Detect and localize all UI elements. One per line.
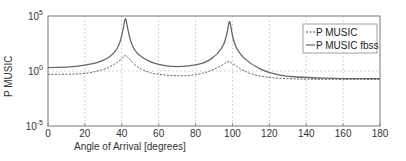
y-tick-label: 100 bbox=[28, 64, 43, 77]
x-tick-label: 0 bbox=[45, 128, 51, 139]
x-axis-label: Angle of Arrival [degrees] bbox=[74, 141, 186, 152]
x-tick-label: 20 bbox=[79, 128, 91, 139]
x-tick-label: 80 bbox=[190, 128, 202, 139]
series-p-music-line bbox=[48, 56, 380, 80]
legend: P MUSIC P MUSIC fbss bbox=[303, 24, 379, 53]
y-tick-label: 105 bbox=[28, 9, 43, 22]
x-tick-label: 60 bbox=[153, 128, 165, 139]
x-tick-label: 160 bbox=[335, 128, 352, 139]
y-axis-ticks: 10510010-5 bbox=[26, 9, 43, 132]
x-tick-label: 180 bbox=[372, 128, 389, 139]
x-axis-ticks: 020406080100120140160180 bbox=[45, 123, 389, 139]
aoa-spectrum-chart: 020406080100120140160180 10510010-5 Angl… bbox=[0, 0, 406, 161]
y-tick-label: 10-5 bbox=[26, 119, 43, 132]
legend-item-p-music-fbss: P MUSIC fbss bbox=[316, 40, 379, 51]
y-axis-label: P MUSIC bbox=[3, 56, 14, 98]
x-tick-label: 140 bbox=[298, 128, 315, 139]
x-tick-label: 120 bbox=[261, 128, 278, 139]
x-tick-label: 40 bbox=[116, 128, 128, 139]
legend-item-p-music: P MUSIC bbox=[316, 27, 358, 38]
x-tick-label: 100 bbox=[224, 128, 241, 139]
